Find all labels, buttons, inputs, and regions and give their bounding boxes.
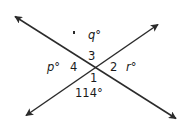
degree-symbol-p: °: [54, 60, 60, 74]
angle-label-4: 4: [70, 62, 77, 74]
intersecting-lines-svg: [0, 0, 189, 134]
stray-dot-artifact: [73, 31, 75, 34]
degree-symbol-q: °: [95, 28, 101, 42]
degree-symbol-r: °: [131, 60, 137, 74]
angle-label-r: r°: [126, 62, 136, 74]
angle-label-3: 3: [88, 51, 95, 63]
angle-label-1: 1: [90, 73, 97, 85]
angle-diagram-figure: q° 3 p° 4 2 r° 1 114°: [0, 0, 189, 134]
angle-label-p: p°: [47, 62, 60, 74]
angle-label-2: 2: [110, 62, 117, 74]
angle-label-q: q°: [88, 30, 101, 42]
angle-measure-114: 114°: [75, 88, 103, 100]
